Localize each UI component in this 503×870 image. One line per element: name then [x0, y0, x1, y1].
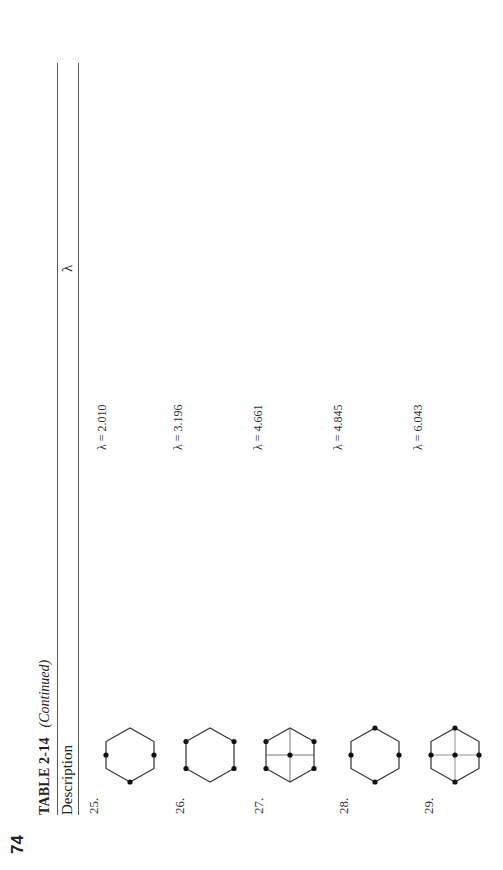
- hexagon-figure-28: [348, 728, 402, 782]
- table-caption: TABLE 2-14(Continued): [37, 660, 53, 815]
- page-number: 74: [8, 835, 28, 854]
- row-label: 29.: [421, 798, 437, 814]
- lambda-value: λ = 4.661: [251, 404, 266, 450]
- lambda-value: λ = 2.010: [95, 404, 110, 450]
- hexagon-figure-27: [263, 728, 317, 782]
- row-label: 25.: [86, 798, 102, 814]
- table-label: TABLE 2-14: [37, 737, 52, 815]
- lambda-value: λ = 4.845: [331, 404, 346, 450]
- row-label: 28.: [336, 798, 352, 814]
- row-label: 26.: [172, 798, 188, 814]
- column-header-description: Description: [59, 745, 76, 815]
- table-header-rule: [78, 63, 79, 815]
- lambda-value: λ = 3.196: [171, 404, 186, 450]
- rotated-page: 74 TABLE 2-14(Continued) Description λ 2…: [0, 0, 503, 870]
- table-top-rule: [57, 63, 58, 815]
- lambda-value: λ = 6.043: [411, 404, 426, 450]
- table-continued: (Continued): [37, 660, 52, 728]
- hexagon-figure-29: [428, 728, 482, 782]
- hexagon-figure-26: [183, 728, 237, 782]
- row-label: 27.: [251, 798, 267, 814]
- hexagon-figure-25: [103, 728, 157, 782]
- column-header-lambda: λ: [59, 265, 76, 272]
